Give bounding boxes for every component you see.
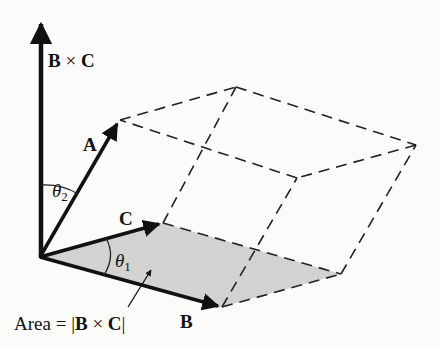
area-B: B <box>75 313 88 334</box>
base-face-shaded <box>40 223 341 307</box>
theta2-subscript: 2 <box>61 189 68 204</box>
label-theta2: θ2 <box>52 181 68 203</box>
theta1-subscript: 1 <box>124 259 131 274</box>
parallelepiped-diagram: B × C A C B θ2 θ1 Area = |B × C| <box>0 0 439 346</box>
label-BxC-operator: × <box>65 50 76 71</box>
label-BxC: B × C <box>48 51 95 70</box>
label-C: C <box>119 209 133 228</box>
label-A: A <box>83 135 97 154</box>
label-B: B <box>180 312 193 331</box>
area-C: C <box>108 313 122 334</box>
area-prefix: Area = | <box>14 313 75 334</box>
label-BxC-C: C <box>81 50 95 71</box>
theta2-symbol: θ <box>52 180 61 201</box>
area-suffix: | <box>122 313 126 334</box>
area-operator: × <box>88 313 108 334</box>
label-theta1: θ1 <box>115 251 131 273</box>
theta1-symbol: θ <box>115 250 124 271</box>
area-label: Area = |B × C| <box>14 314 125 333</box>
label-BxC-B: B <box>48 50 61 71</box>
